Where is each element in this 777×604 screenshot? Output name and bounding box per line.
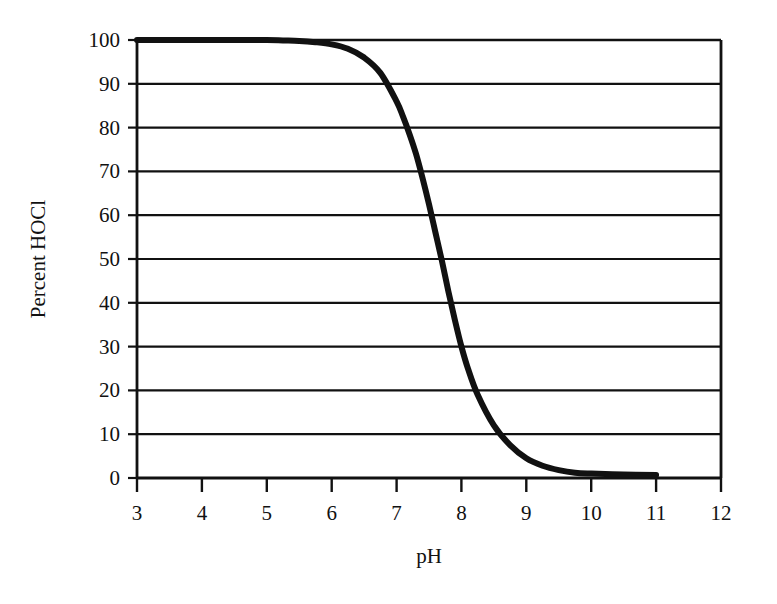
y-label-50: 50	[99, 247, 120, 271]
x-label-4: 4	[197, 501, 208, 525]
x-label-8: 8	[456, 501, 467, 525]
x-label-7: 7	[391, 501, 402, 525]
y-label-40: 40	[99, 291, 120, 315]
y-label-30: 30	[99, 335, 120, 359]
y-label-0: 0	[110, 466, 121, 490]
y-label-70: 70	[99, 159, 120, 183]
y-label-100: 100	[89, 28, 121, 52]
x-label-9: 9	[521, 501, 532, 525]
x-label-3: 3	[132, 501, 143, 525]
y-label-20: 20	[99, 378, 120, 402]
x-label-6: 6	[326, 501, 337, 525]
y-label-80: 80	[99, 116, 120, 140]
x-label-10: 10	[581, 501, 602, 525]
y-label-90: 90	[99, 72, 120, 96]
y-axis-title: Percent HOCl	[26, 200, 50, 319]
y-label-10: 10	[99, 422, 120, 446]
hocl-ph-chart: 100 90 80 70 60 50 40 30 20 10 0 3 4 5 6…	[0, 0, 777, 604]
x-label-12: 12	[711, 501, 732, 525]
chart-figure: 100 90 80 70 60 50 40 30 20 10 0 3 4 5 6…	[0, 0, 777, 604]
x-axis-title: pH	[416, 544, 442, 568]
y-label-60: 60	[99, 203, 120, 227]
x-label-5: 5	[262, 501, 273, 525]
x-label-11: 11	[646, 501, 666, 525]
